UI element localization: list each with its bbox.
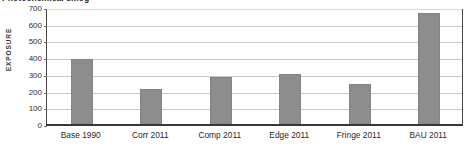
bar xyxy=(418,13,440,124)
y-tick-label: 700 xyxy=(16,5,42,13)
y-tick-label: 300 xyxy=(16,72,42,80)
y-tick-label: 200 xyxy=(16,89,42,97)
bar xyxy=(279,74,301,124)
bar-chart-figure: Photochemical smog EXPOSURE 010020030040… xyxy=(0,0,470,152)
y-tick-label: 400 xyxy=(16,55,42,63)
y-tick-label: 600 xyxy=(16,22,42,30)
x-tick-label: Edge 2011 xyxy=(269,130,309,141)
x-tick-label: Fringe 2011 xyxy=(337,130,381,141)
bar xyxy=(349,84,371,124)
x-axis-tick-labels: Base 1990Corr 2011Comp 2011Edge 2011Frin… xyxy=(46,130,463,146)
y-axis-tick-labels: 0100200300400500600700 xyxy=(16,9,42,126)
x-tick-label: Corr 2011 xyxy=(132,130,169,141)
x-tick-label: BAU 2011 xyxy=(409,130,447,141)
y-tick-mark xyxy=(44,126,47,127)
x-tick-label: Base 1990 xyxy=(61,130,101,141)
chart-title: Photochemical smog xyxy=(2,0,89,3)
y-tick-label: 500 xyxy=(16,38,42,46)
bar xyxy=(140,89,162,124)
plot-area xyxy=(46,9,463,126)
y-tick-label: 0 xyxy=(16,122,42,130)
bar xyxy=(210,77,232,124)
y-axis-title: EXPOSURE xyxy=(5,15,12,85)
x-tick-label: Comp 2011 xyxy=(198,130,241,141)
y-tick-label: 100 xyxy=(16,105,42,113)
bars-layer xyxy=(47,9,462,124)
bar xyxy=(71,59,93,124)
